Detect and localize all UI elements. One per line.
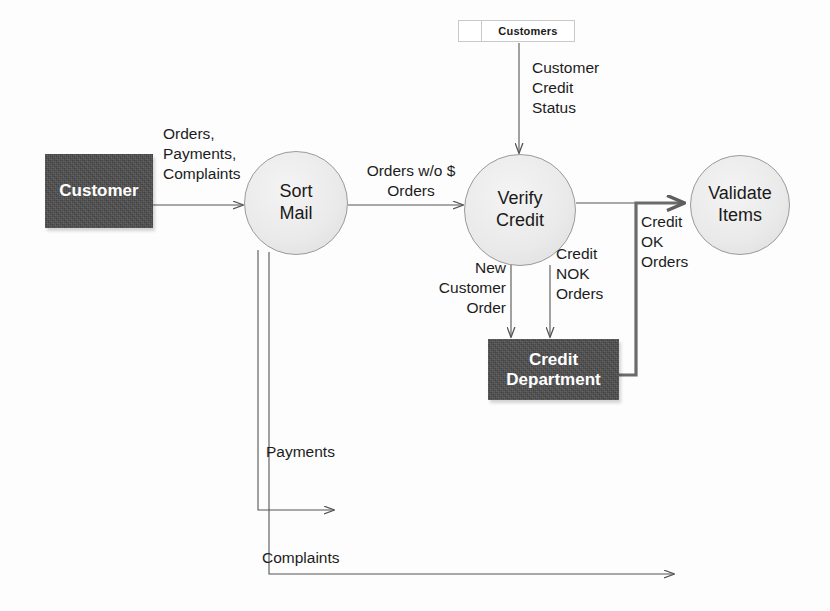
- flow-label-new-customer-order: New Customer Order: [410, 258, 506, 317]
- entity-customer-label: Customer: [59, 181, 138, 200]
- process-sort-mail-label-line1: Sort: [279, 181, 312, 203]
- entity-credit-department-label-line1: Credit: [506, 350, 600, 369]
- entity-credit-department-label: Credit Department: [506, 350, 600, 388]
- flow-label-orders-wo-dollar-orders: Orders w/o $ Orders: [352, 161, 470, 201]
- flow-label-customer-credit-status: Customer Credit Status: [532, 58, 599, 117]
- flow-label-credit-nok-orders: Credit NOK Orders: [556, 244, 603, 303]
- flow-label-complaints: Complaints: [262, 548, 340, 568]
- process-verify-credit-label-line2: Credit: [496, 210, 544, 232]
- process-sort-mail[interactable]: Sort Mail: [244, 151, 348, 255]
- process-sort-mail-label-line2: Mail: [279, 203, 312, 225]
- dfd-diagram-canvas: Customer Credit Department Sort Mail Ver…: [0, 0, 830, 611]
- flow-label-payments: Payments: [266, 442, 335, 462]
- process-validate-items[interactable]: Validate Items: [690, 155, 790, 255]
- datastore-customers[interactable]: Customers: [458, 20, 575, 42]
- entity-credit-department[interactable]: Credit Department: [488, 339, 619, 400]
- flow-label-credit-ok-orders: Credit OK Orders: [641, 212, 688, 271]
- entity-customer[interactable]: Customer: [45, 154, 153, 228]
- process-validate-items-label-line2: Items: [718, 205, 762, 227]
- process-verify-credit-label-line1: Verify: [497, 188, 542, 210]
- entity-credit-department-label-line2: Department: [506, 370, 600, 389]
- process-validate-items-label-line1: Validate: [708, 183, 772, 205]
- flow-label-orders-payments-complaints: Orders, Payments, Complaints: [163, 124, 241, 183]
- datastore-customers-label: Customers: [482, 21, 574, 41]
- datastore-customers-id-cell: [459, 21, 482, 41]
